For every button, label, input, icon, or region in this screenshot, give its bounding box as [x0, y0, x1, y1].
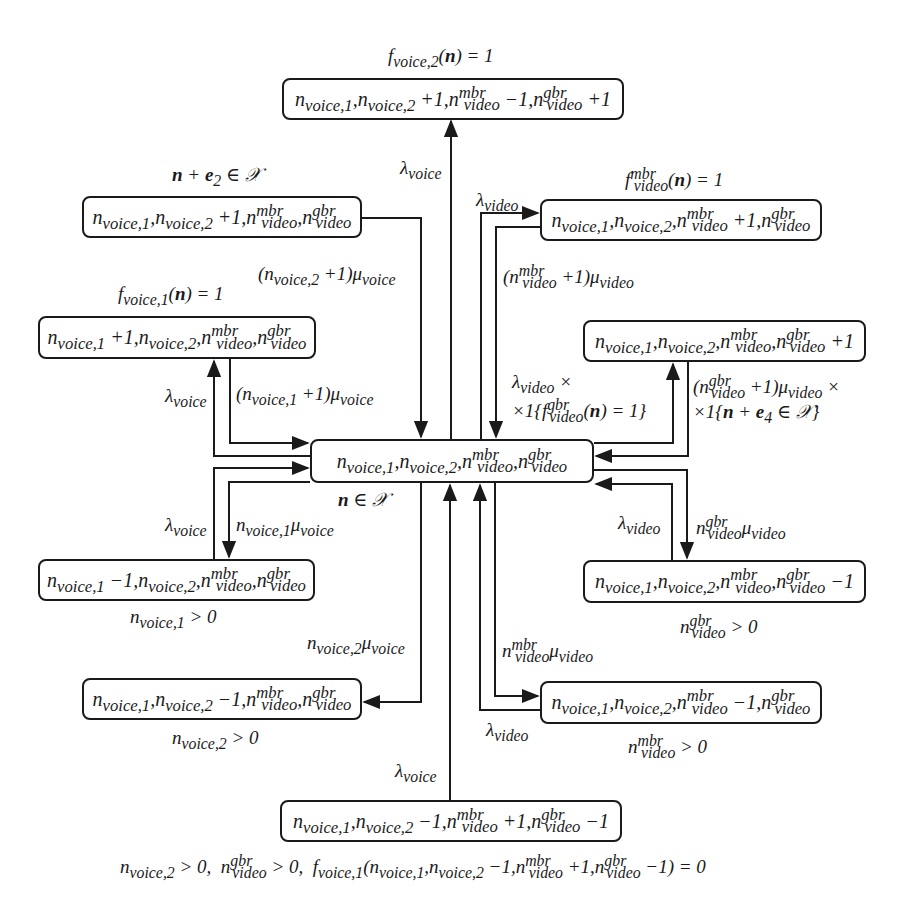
state-voice2-minus: nvoice,1,nvoice,2 −1,nmbrvideo,ngbrvideo [82, 678, 362, 720]
condition-mbr-minus: nmbrvideo > 0 [628, 732, 707, 762]
rate-voice1-minus-to-center: λvoice [165, 515, 207, 539]
rate-bottom-to-center: λvoice [395, 761, 437, 785]
state-mbr-plus: nvoice,1,nvoice,2,nmbrvideo +1,ngbrvideo [540, 199, 822, 241]
rate-center-to-mbr-plus: λvideo [476, 190, 519, 214]
state-gbr-plus: nvoice,1,nvoice,2,nmbrvideo,ngbrvideo +1 [583, 320, 866, 362]
state-center: nvoice,1,nvoice,2,nmbrvideo,ngbrvideo [310, 439, 594, 483]
state-mbr-minus: nvoice,1,nvoice,2,nmbrvideo −1,ngbrvideo [540, 681, 822, 724]
condition-center: n ∈ 𝒳 [338, 490, 388, 511]
rate-mbr-plus-to-center: (nmbrvideo +1)μvideo [503, 262, 634, 292]
state-top: nvoice,1,nvoice,2 +1,nmbrvideo −1,ngbrvi… [282, 78, 624, 120]
rate-center-to-voice1-minus: nvoice,1μvoice [236, 515, 334, 539]
arrow-center-to-voice1plus [214, 361, 310, 456]
state-voice1-minus: nvoice,1 −1,nvoice,2,nmbrvideo,ngbrvideo [38, 559, 315, 601]
condition-voice2-minus: nvoice,2 > 0 [172, 728, 259, 752]
rate-gbr-minus-to-center: λvideo [618, 513, 661, 537]
arrow-mbrminus-to-center [480, 485, 540, 710]
rate-center-to-voice1-plus: λvoice [165, 386, 207, 410]
condition-bottom: nvoice,2 > 0, ngbrvideo > 0, fvoice,1(nv… [120, 852, 706, 882]
rate-voice1-plus-to-center: (nvoice,1 +1)μvoice [236, 384, 373, 408]
state-bottom: nvoice,1,nvoice,2 −1,nmbrvideo +1,ngbrvi… [280, 800, 622, 842]
condition-voice2-plus: n + e2 ∈ 𝒳 [172, 165, 261, 189]
arrow-center-to-voice2minus [364, 483, 421, 702]
condition-voice1-plus: fvoice,1(n) = 1 [118, 284, 224, 308]
state-top-label: nvoice,1,nvoice,2 +1,nmbrvideo −1,ngbrvi… [295, 83, 611, 116]
condition-gbr-minus: ngbrvideo > 0 [680, 612, 758, 642]
condition-voice1-minus: nvoice,1 > 0 [130, 607, 217, 631]
rate-center-to-mbr-minus: nmbrvideoμvideo [502, 636, 593, 666]
rate-voice2-plus-to-center: (nvoice,2 +1)μvoice [258, 264, 395, 288]
rate-center-to-gbr-minus: ngbrvideoμvideo [696, 513, 786, 543]
condition-mbr-plus: fmbrvideo(n) = 1 [625, 165, 723, 195]
rate-center-to-top: λvoice [400, 158, 442, 182]
rate-center-to-gbr-plus: λvideo ××1{fgbrvideo(n) = 1} [512, 372, 646, 426]
condition-top: fvoice,2(n) = 1 [388, 46, 494, 70]
rate-center-to-voice2-minus: nvoice,2μvoice [307, 633, 405, 657]
state-voice1-plus: nvoice,1 +1,nvoice,2,nmbrvideo,ngbrvideo [38, 316, 316, 359]
state-voice2-plus: nvoice,1,nvoice,2 +1,nmbrvideo,ngbrvideo [82, 196, 362, 238]
rate-mbr-minus-to-center: λvideo [486, 720, 529, 744]
state-gbr-minus: nvoice,1,nvoice,2,nmbrvideo,ngbrvideo −1 [583, 560, 866, 603]
rate-gbr-plus-to-center: (ngbrvideo +1)μvideo ××1{n + e4 ∈ 𝒳} [693, 372, 840, 426]
